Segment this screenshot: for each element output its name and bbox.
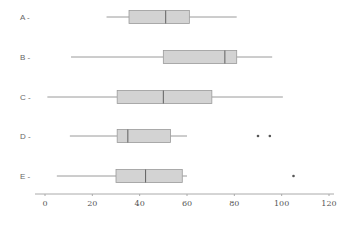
box-b [71,51,272,64]
box-plot-chart: 020406080100120 A -B -C -D -E - [0,0,357,225]
box-d [70,130,271,143]
iqr-box [129,11,189,24]
x-tick-label: 60 [182,199,192,208]
category-label: D - [20,132,31,141]
box-a [107,11,237,24]
x-tick-label: 0 [42,199,47,208]
outlier-point [257,135,260,138]
iqr-box [116,170,182,183]
x-tick-label: 80 [229,199,239,208]
x-tick-label: 40 [135,199,145,208]
iqr-box [163,51,236,64]
category-label: B - [20,53,31,62]
outlier-point [292,175,295,178]
iqr-box [117,130,170,143]
box-c [47,91,282,104]
x-tick-label: 20 [87,199,97,208]
category-label: E - [20,172,31,181]
category-label: A - [20,13,30,22]
x-tick-label: 120 [321,199,336,208]
boxes-layer [47,11,294,183]
x-tick-label: 100 [274,199,289,208]
box-e [57,170,295,183]
category-label: C - [20,93,31,102]
category-labels: A -B -C -D -E - [20,13,31,181]
outlier-point [269,135,272,138]
iqr-box [117,91,212,104]
x-axis: 020406080100120 [35,194,337,208]
